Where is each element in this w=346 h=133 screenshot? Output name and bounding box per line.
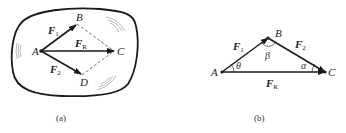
vector-label-F1: F1 xyxy=(47,24,59,38)
vector-F2 xyxy=(41,51,81,74)
point-A-dot xyxy=(220,70,223,73)
vector-label-F2: F2 xyxy=(294,38,306,52)
point-A-dot xyxy=(39,49,43,53)
point-label-C: C xyxy=(328,66,336,78)
caption-a: (a) xyxy=(56,113,66,123)
point-C-dot xyxy=(323,70,326,73)
figure-a: A B C D F1 FR F2 (a) xyxy=(12,8,138,123)
vector-label-FR: FR xyxy=(74,37,87,51)
angle-label-theta: θ xyxy=(236,60,241,71)
angle-label-beta: β xyxy=(264,50,270,61)
force-diagram: A B C D F1 FR F2 (a) A B C F1 F2 FR θ β … xyxy=(0,0,346,133)
point-label-A: A xyxy=(31,45,39,57)
angle-arc-beta xyxy=(262,43,275,46)
dashed-line-DC xyxy=(82,51,114,75)
vector-label-F2: F2 xyxy=(49,63,61,77)
point-B-dot xyxy=(266,36,269,39)
point-label-B: B xyxy=(76,11,83,23)
figure-b: A B C F1 F2 FR θ β α (b) xyxy=(210,27,336,123)
vector-F1 xyxy=(222,38,268,72)
angle-label-alpha: α xyxy=(301,60,307,71)
point-label-B: B xyxy=(275,27,282,39)
vector-F1 xyxy=(41,25,76,51)
vector-label-FR: FR xyxy=(265,77,278,91)
point-label-A: A xyxy=(210,66,218,78)
caption-b: (b) xyxy=(254,113,265,123)
vector-label-F1: F1 xyxy=(232,40,244,54)
point-label-C: C xyxy=(117,45,125,57)
point-label-D: D xyxy=(79,76,88,88)
